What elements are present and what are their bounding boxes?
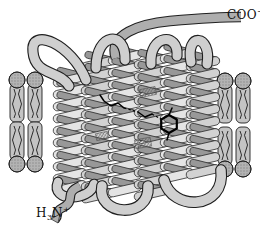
figure-canvas [0, 0, 260, 240]
n-terminus-label: H3N+ [36, 205, 70, 222]
lipid-molecule [9, 122, 25, 172]
lipid-molecule [9, 72, 25, 122]
membrane-protein-figure: COO− H3N+ [0, 0, 260, 240]
n-terminus-charge: + [63, 205, 70, 214]
c-terminus-label: COO− [227, 7, 260, 22]
lipid-molecule [235, 127, 251, 177]
n-terminus-n: N [52, 206, 63, 220]
transmembrane-helix-6 [185, 51, 220, 180]
lipid-molecule [27, 72, 43, 122]
lipid-molecule [235, 73, 251, 123]
lipid-bilayer-left [9, 72, 43, 172]
c-terminus-charge: − [257, 7, 260, 16]
c-terminus-text: COO [227, 8, 257, 22]
n-terminus-h: H [36, 206, 47, 220]
lipid-molecule [27, 122, 43, 172]
lipid-bilayer-right [217, 73, 251, 177]
